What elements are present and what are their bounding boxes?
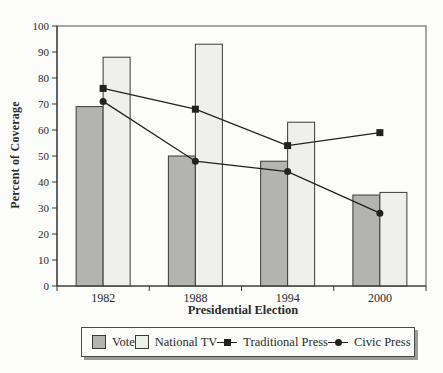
y-tick-label: 70 [38, 98, 50, 110]
legend-label-civic-press: Civic Press [354, 335, 411, 350]
marker-civic-press-1988 [192, 158, 199, 165]
marker-civic-press-1994 [284, 168, 291, 175]
y-tick-label: 50 [38, 150, 50, 162]
x-tick-label-2000: 2000 [368, 291, 392, 305]
bar-national-tv-1994 [288, 122, 315, 286]
y-axis-title: Percent of Coverage [8, 101, 23, 209]
x-axis-title: Presidential Election [188, 303, 299, 318]
chart-figure: 01020304050607080901001982198819942000 P… [0, 0, 443, 373]
bar-vote-1994 [261, 161, 288, 286]
national-tv-swatch-icon [135, 335, 149, 349]
y-tick-label: 90 [38, 46, 50, 58]
vote-swatch-icon [92, 335, 106, 349]
square-marker-icon [224, 339, 231, 346]
marker-traditional-press-2000 [376, 129, 383, 136]
y-tick-label: 60 [38, 124, 50, 136]
y-tick-label: 10 [38, 254, 50, 266]
y-tick-label: 20 [38, 228, 50, 240]
line-civic-press [103, 101, 380, 213]
circle-marker-icon [335, 339, 342, 346]
bar-national-tv-2000 [380, 192, 407, 286]
marker-traditional-press-1994 [284, 142, 291, 149]
bar-national-tv-1988 [195, 44, 222, 286]
marker-traditional-press-1982 [100, 85, 107, 92]
legend-item-civic-press: Civic Press [328, 335, 411, 350]
line-circle-marker-icon [328, 338, 348, 347]
legend-item-national-tv: National TV [135, 335, 218, 350]
legend-label-vote: Vote [112, 335, 135, 350]
y-tick-label: 80 [38, 72, 50, 84]
legend-item-vote: Vote [92, 335, 135, 350]
x-tick-label-1982: 1982 [91, 291, 115, 305]
bar-vote-1988 [168, 156, 195, 286]
y-tick-label: 40 [38, 176, 50, 188]
line-square-marker-icon [217, 338, 237, 347]
legend: Vote National TV Traditional Press Civic… [81, 327, 415, 357]
line-traditional-press [103, 88, 380, 145]
y-tick-label: 0 [44, 280, 50, 292]
y-tick-label: 30 [38, 202, 50, 214]
marker-civic-press-2000 [376, 210, 383, 217]
legend-label-national-tv: National TV [155, 335, 218, 350]
y-tick-label: 100 [33, 20, 50, 32]
legend-label-traditional-press: Traditional Press [243, 335, 328, 350]
bar-vote-1982 [76, 107, 103, 286]
legend-item-traditional-press: Traditional Press [217, 335, 328, 350]
marker-traditional-press-1988 [192, 106, 199, 113]
marker-civic-press-1982 [100, 98, 107, 105]
bar-vote-2000 [353, 195, 380, 286]
plot-area: 01020304050607080901001982198819942000 [0, 0, 443, 320]
